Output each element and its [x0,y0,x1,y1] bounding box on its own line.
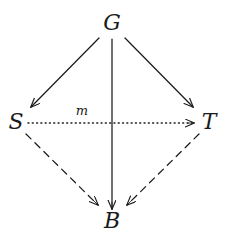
node-label-s: S [8,111,23,133]
edge-t-to-b [127,134,199,205]
edge-s-to-b [26,134,98,205]
edge-label-m: m [76,104,88,117]
node-label-g: G [103,12,121,34]
edge-g-to-s [31,38,99,107]
node-label-b: B [104,210,120,232]
node-label-t: T [202,111,217,133]
edge-g-to-t [125,38,193,107]
diagram-canvas: G S T B m [0,0,227,239]
diagram-edges-svg [0,0,227,239]
